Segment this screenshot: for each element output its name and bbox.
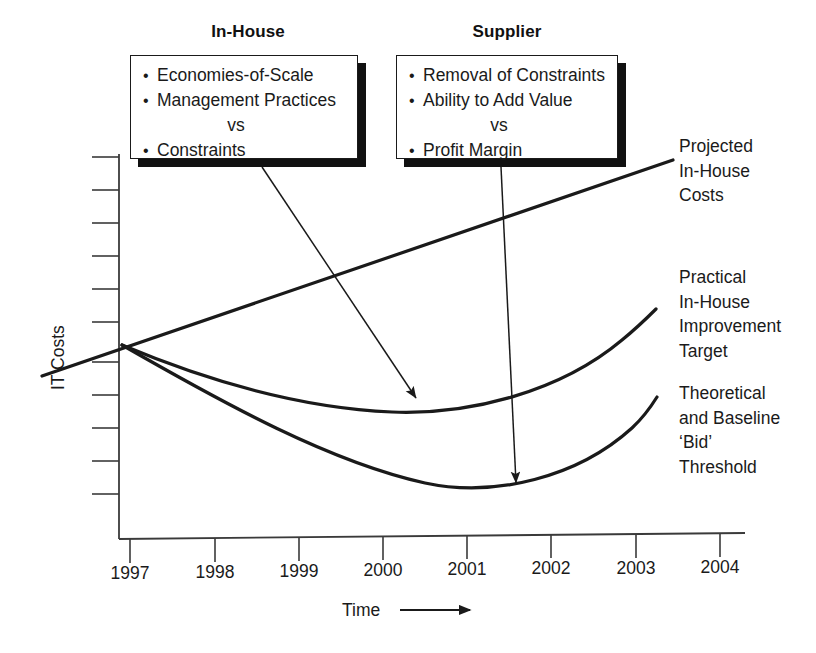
series-label-line: In-House bbox=[679, 159, 753, 184]
series-label-line: Practical bbox=[679, 265, 781, 290]
callout-in-house-body: Economies-of-Scale Management Practices … bbox=[130, 55, 358, 159]
callout-supplier-line-3: vs bbox=[409, 113, 607, 138]
series-label-line: Theoretical bbox=[679, 381, 780, 406]
series-line-projected-in-house-costs bbox=[42, 160, 673, 376]
callout-in-house-line-3: vs bbox=[143, 113, 347, 138]
y-axis-title: IT Costs bbox=[48, 325, 69, 390]
x-tick-label-1998: 1998 bbox=[180, 562, 250, 583]
x-tick-label-1997: 1997 bbox=[95, 563, 165, 584]
series-label-practical-improvement-target: Practical In-House Improvement Target bbox=[679, 265, 781, 363]
series-label-line: In-House bbox=[679, 290, 781, 315]
callout-supplier-title: Supplier bbox=[396, 22, 618, 42]
series-label-theoretical-bid-threshold: Theoretical and Baseline ‘Bid’ Threshold bbox=[679, 381, 780, 479]
x-axis-title: Time bbox=[342, 600, 380, 621]
x-tick-label-2004: 2004 bbox=[685, 557, 755, 578]
x-tick-label-2001: 2001 bbox=[432, 559, 502, 580]
x-axis-line bbox=[119, 533, 745, 539]
series-label-line: Threshold bbox=[679, 455, 780, 480]
callout-supplier: Supplier Removal of Constraints Ability … bbox=[396, 22, 632, 167]
callout-in-house-line-2: Management Practices bbox=[143, 88, 347, 113]
annotation-arrow-in-house bbox=[262, 167, 416, 398]
callout-supplier-line-4: Profit Margin bbox=[409, 138, 607, 163]
callout-supplier-line-2: Ability to Add Value bbox=[409, 88, 607, 113]
series-label-line: and Baseline bbox=[679, 406, 780, 431]
callout-in-house: In-House Economies-of-Scale Management P… bbox=[130, 22, 366, 167]
callout-in-house-line-1: Economies-of-Scale bbox=[143, 63, 347, 88]
series-label-line: Projected bbox=[679, 134, 753, 159]
callout-in-house-title: In-House bbox=[130, 22, 366, 42]
series-label-line: Improvement bbox=[679, 314, 781, 339]
series-label-line: ‘Bid’ bbox=[679, 430, 780, 455]
callout-supplier-line-1: Removal of Constraints bbox=[409, 63, 607, 88]
series-label-projected-in-house-costs: Projected In-House Costs bbox=[679, 134, 753, 208]
series-label-line: Costs bbox=[679, 183, 753, 208]
series-label-line: Target bbox=[679, 339, 781, 364]
series-curve-practical-improvement-target bbox=[122, 309, 656, 412]
x-tick-label-2002: 2002 bbox=[516, 558, 586, 579]
callout-in-house-line-4: Constraints bbox=[143, 138, 347, 163]
figure-canvas: In-House Economies-of-Scale Management P… bbox=[0, 0, 816, 653]
x-tick-label-2000: 2000 bbox=[348, 560, 418, 581]
y-axis-ticks bbox=[92, 157, 119, 494]
x-tick-label-1999: 1999 bbox=[264, 561, 334, 582]
callout-supplier-body: Removal of Constraints Ability to Add Va… bbox=[396, 55, 618, 159]
x-tick-label-2003: 2003 bbox=[601, 558, 671, 579]
series-curve-theoretical-bid-threshold bbox=[122, 345, 657, 488]
